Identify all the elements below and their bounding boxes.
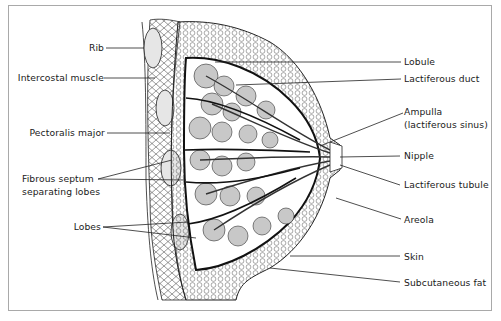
label-ampulla: Ampulla — [404, 106, 442, 117]
label-skin: Skin — [404, 251, 424, 262]
label-rib: Rib — [40, 42, 104, 53]
label-pectoralis-major: Pectoralis major — [10, 127, 105, 138]
label-areola: Areola — [404, 214, 434, 225]
label-subcutaneous-fat: Subcutaneous fat — [404, 277, 486, 288]
label-separating-lobes: separating lobes — [22, 186, 100, 197]
label-fibrous-septum: Fibrous septum — [22, 173, 94, 184]
label-lobule: Lobule — [404, 56, 435, 67]
label-nipple: Nipple — [404, 150, 434, 161]
label-lactiferous-duct: Lactiferous duct — [404, 73, 479, 84]
label-intercostal-muscle: Intercostal muscle — [5, 72, 104, 83]
label-lactiferous-tubule: Lactiferous tubule — [404, 179, 489, 190]
label-lactiferous-sinus: (lactiferous sinus) — [404, 119, 488, 130]
label-lobes: Lobes — [60, 221, 101, 232]
